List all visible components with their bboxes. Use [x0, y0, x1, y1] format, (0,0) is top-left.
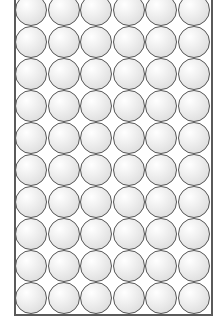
- diagram-canvas: [0, 0, 216, 334]
- container-box: [14, 0, 213, 316]
